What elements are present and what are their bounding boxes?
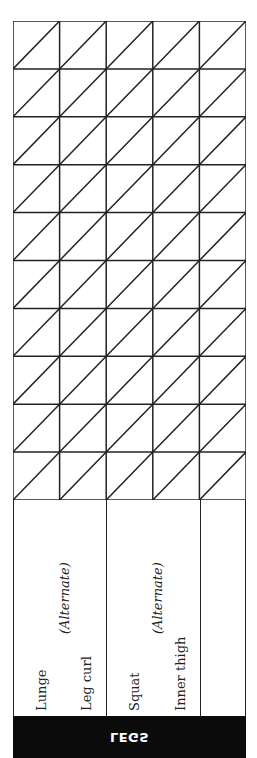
exercise-primary-2: Squat	[128, 672, 141, 711]
group-divider	[106, 500, 107, 716]
exercise-label-area: Lunge (Alternate) Leg curl Squat (Altern…	[13, 500, 246, 716]
section-title: LEGS	[110, 730, 149, 745]
exercise-alternate-note-1: (Alternate)	[58, 562, 71, 634]
group-divider	[200, 500, 201, 716]
log-grid	[13, 21, 246, 500]
diagonal-grid	[13, 21, 246, 500]
exercise-secondary-1: Leg curl	[80, 656, 93, 711]
section-header-band: LEGS	[13, 716, 246, 758]
exercise-secondary-2: Inner thigh	[174, 637, 187, 711]
exercise-alternate-note-2: (Alternate)	[151, 562, 164, 634]
exercise-primary-1: Lunge	[35, 670, 48, 711]
